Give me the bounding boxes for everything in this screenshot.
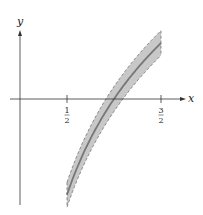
tick-denominator: 2 bbox=[64, 116, 69, 125]
tick-numerator: 3 bbox=[158, 106, 163, 115]
tick-denominator: 2 bbox=[158, 116, 163, 125]
y-axis-arrow-icon bbox=[18, 30, 22, 36]
lower-band-line bbox=[67, 56, 161, 208]
chart: x y 1232 bbox=[0, 0, 203, 215]
y-axis-label: y bbox=[16, 15, 24, 28]
x-axis-label: x bbox=[188, 92, 195, 105]
x-axis-arrow-icon bbox=[180, 97, 186, 101]
band-region bbox=[67, 31, 161, 208]
tick-numerator: 1 bbox=[64, 106, 69, 115]
